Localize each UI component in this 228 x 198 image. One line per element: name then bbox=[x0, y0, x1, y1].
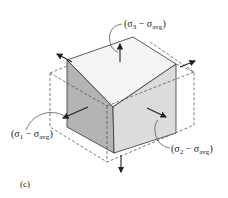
arrow-upper-right-icon bbox=[180, 61, 195, 67]
figure-caption: (c) bbox=[20, 179, 30, 189]
label-sigma3: (σ3 − σavg) bbox=[124, 18, 166, 31]
label-sigma1: (σ1 − σavg) bbox=[11, 128, 53, 141]
stress-cube-diagram bbox=[0, 0, 228, 198]
arrow-upper-left-icon bbox=[57, 54, 72, 62]
label-sigma2: (σ2 − σavg) bbox=[171, 143, 213, 156]
